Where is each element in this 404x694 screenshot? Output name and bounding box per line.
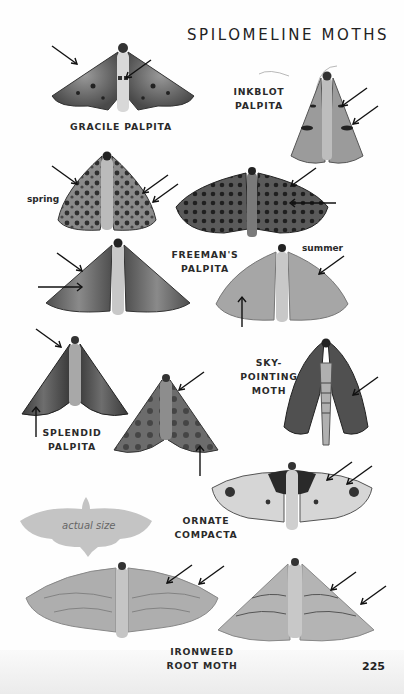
field-mark-arrow xyxy=(350,375,380,397)
field-mark-arrow xyxy=(50,164,80,186)
ironweed-root-moth-label: IRONWEED ROOT MOTH xyxy=(166,645,238,673)
sky-pointing-moth-label: SKY-POINTING MOTH xyxy=(228,356,310,398)
splendid-palpita-label: SPLENDID PALPITA xyxy=(38,426,106,454)
field-mark-arrow xyxy=(195,444,205,478)
spring-form-note: spring xyxy=(27,194,59,204)
field-mark-arrow xyxy=(288,198,338,208)
field-mark-arrow xyxy=(237,295,247,329)
field-mark-arrow xyxy=(34,327,64,349)
ironweed-root-moth-alt-illustration xyxy=(216,554,376,644)
gracile-palpita-label: GRACILE PALPITA xyxy=(66,120,176,134)
field-mark-arrow xyxy=(164,563,194,585)
actual-size-label: actual size xyxy=(62,520,115,531)
page-title: SPILOMELINE MOTHS xyxy=(187,26,389,44)
ornate-compacta-label: ORNATE COMPACTA xyxy=(172,514,240,542)
field-mark-arrow xyxy=(350,104,380,126)
field-mark-arrow xyxy=(50,44,80,66)
field-guide-page: SPILOMELINE MOTHS GRACILE PALPITA INKBLO… xyxy=(0,0,404,694)
field-mark-arrow xyxy=(344,464,374,486)
field-mark-arrow xyxy=(288,166,318,188)
summer-form-note: summer xyxy=(302,243,343,253)
field-mark-arrow xyxy=(36,282,84,292)
page-number: 225 xyxy=(362,660,385,673)
field-mark-arrow xyxy=(328,570,358,592)
field-mark-arrow xyxy=(123,58,153,80)
field-mark-arrow xyxy=(176,370,206,392)
field-mark-arrow xyxy=(55,251,85,273)
field-mark-arrow xyxy=(358,584,388,606)
field-mark-arrow xyxy=(316,254,346,276)
inkblot-palpita-label: INKBLOT PALPITA xyxy=(224,85,294,113)
